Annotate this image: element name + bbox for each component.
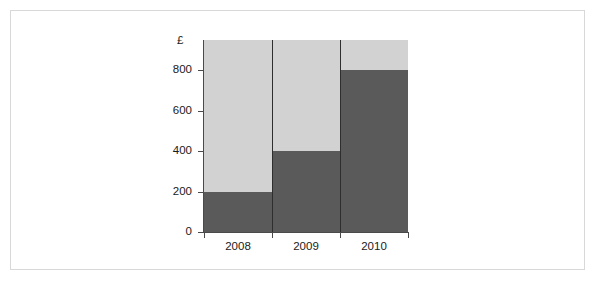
y-axis-title: £ [177,34,183,46]
bar-separator-1 [272,40,273,232]
x-axis-line [203,232,409,233]
y-tick-400 [198,151,204,152]
bar-2009 [272,151,340,232]
y-tick-200 [198,192,204,193]
x-label-2008: 2008 [208,240,268,252]
bar-2008 [204,192,272,232]
y-tick-600 [198,111,204,112]
y-tick-label-0: 0 [152,225,192,237]
x-tick-left [204,232,205,238]
y-tick-label-600: 600 [152,104,192,116]
bar-separator-2 [340,40,341,232]
y-tick-label-400: 400 [152,144,192,156]
x-label-2009: 2009 [276,240,336,252]
chart-page: £ 0 200 400 600 800 2008 2009 2010 [0,0,599,291]
y-tick-800 [198,70,204,71]
bar-2010 [340,70,408,232]
plot-area [204,40,408,232]
x-tick-right [408,232,409,238]
y-tick-label-200: 200 [152,185,192,197]
y-tick-label-800: 800 [152,63,192,75]
bar-chart: £ 0 200 400 600 800 2008 2009 2010 [0,0,599,291]
y-axis-line [203,40,204,233]
x-tick-2 [340,232,341,238]
x-tick-1 [272,232,273,238]
x-label-2010: 2010 [344,240,404,252]
